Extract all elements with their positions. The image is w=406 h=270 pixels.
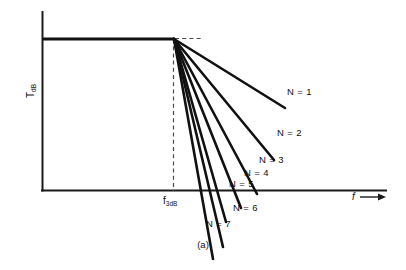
figure-canvas bbox=[0, 0, 406, 270]
curve-label-n3: N = 3 bbox=[259, 155, 284, 165]
x-axis-label: f bbox=[352, 192, 355, 202]
curve-label-n1: N = 1 bbox=[287, 87, 312, 97]
corner-frequency-label-sub: 3dB bbox=[166, 200, 178, 207]
right-arrow-icon bbox=[360, 193, 386, 200]
y-axis-label-sub: dB bbox=[30, 84, 37, 92]
curve-label-n7: N = 7 bbox=[206, 219, 231, 229]
y-axis-label-main: T bbox=[25, 92, 36, 98]
curve-label-n2: N = 2 bbox=[277, 128, 302, 138]
curve-label-n5: N = 5 bbox=[229, 179, 254, 189]
curve-label-n6: N = 6 bbox=[233, 203, 258, 213]
curve-label-n4: N = 4 bbox=[244, 168, 269, 178]
corner-frequency-label: f3dB bbox=[163, 196, 177, 206]
figure-caption: (a) bbox=[0, 239, 406, 250]
filter-rolloff-figure: TdB f f3dB N = 1 N = 2 N = 3 N = 4 N = 5… bbox=[0, 0, 406, 270]
y-axis-label: TdB bbox=[26, 84, 36, 98]
